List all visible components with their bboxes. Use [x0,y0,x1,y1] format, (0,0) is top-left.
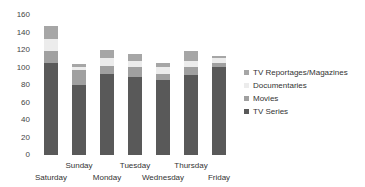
legend-swatch-icon [244,96,249,101]
y-tick-label: 20 [0,133,30,143]
bar-segment-documentaries [156,67,170,74]
legend-swatch-icon [244,70,249,75]
bar-wednesday [156,0,170,155]
bar-segment-tv-reportages-magazines [44,26,58,39]
bar-segment-documentaries [128,61,142,66]
bar-segment-tv-series [100,74,114,155]
legend-item: Movies [244,92,348,105]
legend-item: TV Reportages/Magazines [244,66,348,79]
bar-thursday [184,0,198,155]
bar-friday [212,0,226,155]
y-tick-label: 160 [0,10,30,20]
y-tick-label: 60 [0,98,30,108]
y-tick-label: 120 [0,45,30,55]
bar-segment-tv-reportages-magazines [212,56,226,58]
bar-segment-movies [128,67,142,78]
bar-segment-tv-reportages-magazines [100,50,114,58]
bar-segment-tv-reportages-magazines [128,54,142,62]
x-tick-label: Thursday [174,161,207,170]
x-tick-label: Monday [93,173,121,182]
x-tick-label: Tuesday [120,161,150,170]
legend: TV Reportages/MagazinesDocumentariesMovi… [244,66,348,118]
legend-label: TV Reportages/Magazines [253,68,348,77]
legend-item: Documentaries [244,79,348,92]
bar-segment-movies [100,66,114,74]
legend-label: Movies [253,94,278,103]
bar-sunday [72,0,86,155]
bar-segment-tv-reportages-magazines [184,51,198,61]
y-tick-label: 140 [0,28,30,38]
legend-item: TV Series [244,105,348,118]
x-tick-label: Saturday [35,173,67,182]
bar-tuesday [128,0,142,155]
bar-segment-tv-reportages-magazines [72,64,86,67]
y-tick-label: 100 [0,63,30,73]
bar-segment-tv-series [128,77,142,155]
bar-segment-movies [184,67,198,76]
bar-segment-documentaries [100,58,114,66]
y-tick-label: 80 [0,80,30,90]
bar-segment-movies [212,63,226,67]
stacked-bar-chart: 020406080100120140160 SaturdaySundayMond… [0,0,365,187]
bar-segment-movies [156,74,170,80]
legend-label: TV Series [253,107,288,116]
bar-segment-documentaries [72,67,86,71]
x-tick-label: Friday [208,173,230,182]
bar-saturday [44,0,58,155]
legend-swatch-icon [244,83,249,88]
y-tick-label: 0 [0,150,30,160]
bar-segment-tv-series [156,80,170,155]
bar-segment-movies [44,51,58,63]
bar-segment-tv-reportages-magazines [156,63,170,67]
bar-segment-documentaries [212,58,226,63]
bar-segment-tv-series [212,67,226,155]
legend-swatch-icon [244,109,249,114]
x-tick-label: Sunday [65,161,92,170]
bar-segment-documentaries [44,39,58,51]
legend-label: Documentaries [253,81,307,90]
y-tick-label: 40 [0,115,30,125]
bar-monday [100,0,114,155]
bar-segment-tv-series [184,75,198,155]
bar-segment-movies [72,70,86,85]
bar-segment-tv-series [44,63,58,155]
x-tick-label: Wednesday [142,173,184,182]
bar-segment-tv-series [72,85,86,155]
bar-segment-documentaries [184,61,198,67]
